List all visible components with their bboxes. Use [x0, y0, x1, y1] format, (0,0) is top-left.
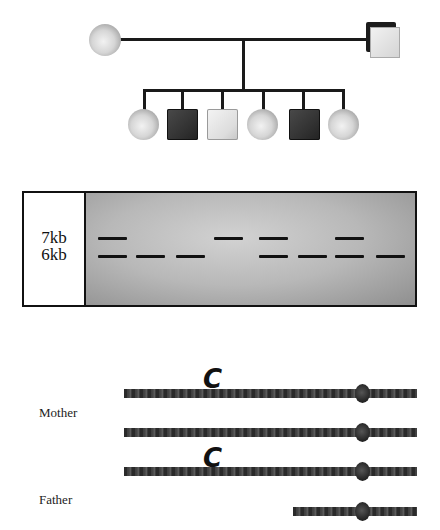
band-lane6-6kb	[298, 255, 327, 258]
band-lane1-7kb	[98, 237, 127, 240]
band-lane1-6kb	[98, 255, 127, 258]
father-label: Father	[39, 492, 72, 508]
band-lane2-6kb	[136, 255, 165, 258]
child-drop-2	[181, 90, 184, 110]
gel-electrophoresis: 7kb 6kb	[22, 191, 417, 307]
gel-size-labels: 7kb 6kb	[24, 193, 86, 305]
centromere	[355, 462, 370, 481]
child-drop-4	[262, 90, 265, 110]
band-lane7-6kb	[335, 255, 364, 258]
centromere	[355, 423, 370, 442]
child-drop-1	[143, 90, 146, 110]
father-symbol	[366, 22, 400, 58]
band-lane7-7kb	[335, 237, 364, 240]
child-3-male	[207, 109, 238, 140]
descent-line	[242, 40, 245, 90]
father-symbol-face	[370, 27, 400, 58]
child-5-male-affected	[289, 109, 320, 140]
child-drop-6	[342, 90, 345, 110]
child-6-female	[328, 109, 359, 140]
child-drop-5	[302, 90, 305, 110]
band-lane8-6kb	[376, 255, 405, 258]
label-6kb: 6kb	[24, 246, 84, 263]
gel-lanes	[86, 193, 415, 305]
mother-chromosome-2	[124, 428, 417, 437]
centromere	[355, 502, 370, 521]
father-chromosome-1	[124, 467, 417, 476]
mother-chromosome-1	[124, 389, 417, 398]
band-lane5-6kb	[259, 255, 288, 258]
child-2-male-affected	[167, 109, 198, 140]
sibship-line	[143, 89, 345, 92]
centromere	[355, 384, 370, 403]
band-lane3-6kb	[176, 255, 205, 258]
band-lane5-7kb	[259, 237, 288, 240]
mother-label: Mother	[39, 405, 77, 421]
child-1-female	[128, 109, 159, 140]
mother-symbol	[89, 24, 121, 56]
label-7kb: 7kb	[24, 229, 84, 246]
band-lane4-7kb	[214, 237, 243, 240]
child-drop-3	[221, 90, 224, 110]
child-4-female	[247, 109, 278, 140]
